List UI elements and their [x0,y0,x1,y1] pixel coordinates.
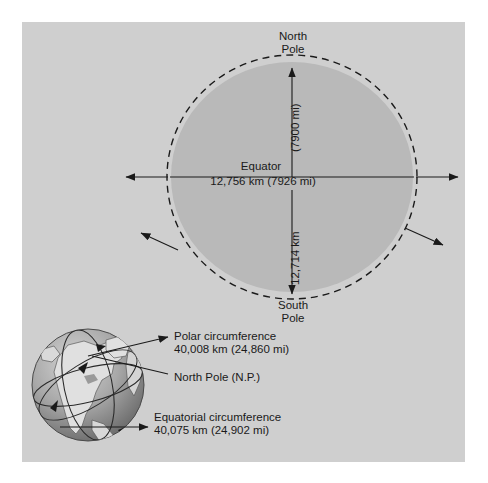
label-equatorial-circumference-title: Equatorial circumference [154,411,281,424]
label-equatorial-circumference-value: 40,075 km (24,902 mi) [154,424,269,437]
label-polar-circumference-value: 40,008 km (24,860 mi) [174,343,289,356]
label-equator-value: 12,756 km (7926 mi) [183,175,343,188]
figure-root: North Pole South Pole Equator 12,756 km … [0,0,488,483]
globe-inset [29,325,168,452]
label-equator: Equator [221,160,301,173]
label-north-pole-np: North Pole (N.P.) [174,371,260,384]
bulge-arrow-left [141,233,178,250]
label-south-pole: South Pole [266,299,320,325]
label-polar-diameter-km: 12,714 km [289,231,302,285]
label-north-pole: North Pole [266,30,320,56]
bulge-arrow-right [405,228,443,245]
label-polar-radius-miles: (7900 mi) [289,103,302,152]
label-polar-circumference-title: Polar circumference [174,330,276,343]
